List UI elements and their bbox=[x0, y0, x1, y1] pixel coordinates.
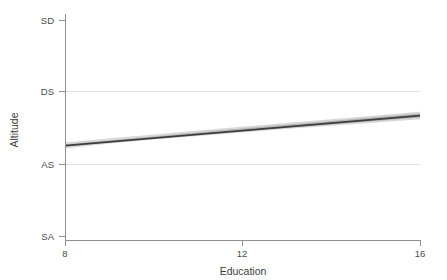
x-tick-label-16: 16 bbox=[415, 248, 426, 259]
x-axis-title: Education bbox=[220, 265, 267, 277]
y-axis-title: Altitude bbox=[8, 112, 20, 147]
y-axis-ticks bbox=[59, 21, 65, 237]
regression-plot: SD DS AS SA 8 12 16 Education Altitude bbox=[0, 0, 447, 280]
x-tick-label-8: 8 bbox=[62, 248, 67, 259]
y-tick-label-as: AS bbox=[41, 159, 54, 170]
chart-container: SD DS AS SA 8 12 16 Education Altitude bbox=[0, 0, 447, 280]
y-tick-label-sd: SD bbox=[41, 15, 54, 26]
x-tick-label-12: 12 bbox=[237, 248, 248, 259]
y-tick-label-ds: DS bbox=[41, 86, 54, 97]
y-tick-label-sa: SA bbox=[41, 231, 54, 242]
